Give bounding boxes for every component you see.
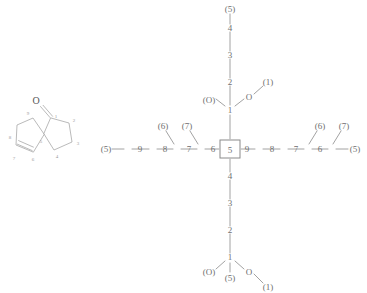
tree-terminal-down: (5) [225,274,236,283]
structure-atom-6: 6 [32,157,35,162]
tree-node-right-7: 7 [294,145,299,154]
structure-atom-8: 8 [9,135,12,140]
tree-right-branch-7: (7) [339,122,350,131]
tree-down-oxygen: O [246,268,253,277]
tree-right-branch-6: (6) [315,122,326,131]
tree-node-left-9: 9 [138,145,143,154]
tree-node-down-2: 2 [228,226,233,235]
tree-node-down-4: 4 [228,172,233,181]
tree-node-right-6: 6 [318,145,323,154]
tree-node-left-8: 8 [163,145,168,154]
tree-node-up-2: 2 [228,78,233,87]
structure-atom-1: 1 [55,114,58,119]
tree-node-up-3: 3 [228,51,233,60]
tree-down-oxygen-terminal: (1) [263,283,274,292]
figure-canvas: O 1 2 3 4 5 6 7 8 9 5 1 2 3 4 (5) (O) O … [0,0,367,293]
spiro-structure-bonds [16,105,72,152]
structure-atom-7: 7 [13,156,16,161]
tree-terminal-up: (5) [225,5,236,14]
structure-atom-4: 4 [56,154,59,159]
tree-root-node-boxed[interactable]: 5 [220,140,241,159]
tree-up-oxygen-terminal: (1) [263,78,274,87]
tree-down-oxygen-ring: (O) [203,268,216,277]
tree-terminal-left: (5) [101,145,112,154]
tree-left-branch-6: (6) [158,122,169,131]
tree-node-down-3: 3 [228,199,233,208]
carbonyl-oxygen-label: O [32,96,39,106]
tree-node-up-1: 1 [228,106,233,115]
structure-atom-9: 9 [27,111,30,116]
structure-atom-2: 2 [73,118,76,123]
tree-up-oxygen: O [246,93,253,102]
tree-up-oxygen-ring: (O) [203,96,216,105]
tree-node-right-9: 9 [245,145,250,154]
tree-node-left-6: 6 [211,145,216,154]
tree-node-left-7: 7 [187,145,192,154]
tree-left-branch-7: (7) [182,122,193,131]
structure-atom-3: 3 [77,141,80,146]
tree-node-down-1: 1 [228,253,233,262]
tree-node-right-8: 8 [270,145,275,154]
figure-vector-layer [0,0,367,293]
tree-terminal-right: (5) [350,145,361,154]
tree-root-label: 5 [228,144,233,154]
tree-node-up-4: 4 [228,24,233,33]
structure-atom-5-spiro: 5 [40,139,43,144]
